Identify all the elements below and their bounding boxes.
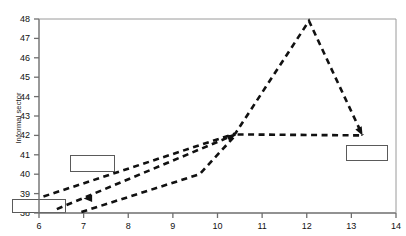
plot-area [0, 0, 406, 236]
axes-group [34, 19, 396, 218]
series-group [43, 21, 362, 212]
chart-container: Informal sector 3839404142434445464748 6… [0, 0, 406, 236]
series-line-lower-path [81, 135, 235, 212]
series-line-middle-path [57, 134, 236, 209]
series-line-plateau-path [238, 134, 363, 135]
